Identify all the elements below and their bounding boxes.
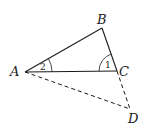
point-b-label: B (96, 12, 107, 27)
point-c-label: C (119, 64, 129, 79)
geometry-diagram: 2 1 A B C D (0, 0, 143, 130)
angle-2-label: 2 (40, 62, 46, 72)
angle-1-label: 1 (105, 60, 111, 70)
segment-ad (25, 72, 130, 109)
point-a-label: A (9, 64, 19, 79)
segment-ab (25, 28, 102, 72)
angle-2-arc (48, 59, 52, 72)
segment-ac (25, 71, 117, 72)
point-d-label: D (127, 111, 139, 126)
